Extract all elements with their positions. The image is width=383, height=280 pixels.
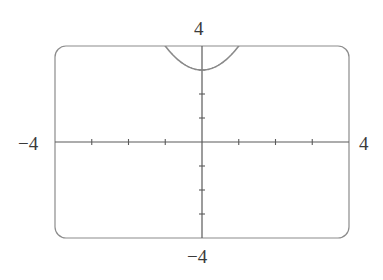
xmax-label: 4 — [359, 134, 369, 153]
xmin-label: −4 — [18, 134, 38, 153]
axes — [55, 46, 349, 238]
graph-window — [0, 0, 383, 280]
ymax-label: 4 — [194, 19, 204, 38]
ymin-label: −4 — [187, 247, 207, 266]
